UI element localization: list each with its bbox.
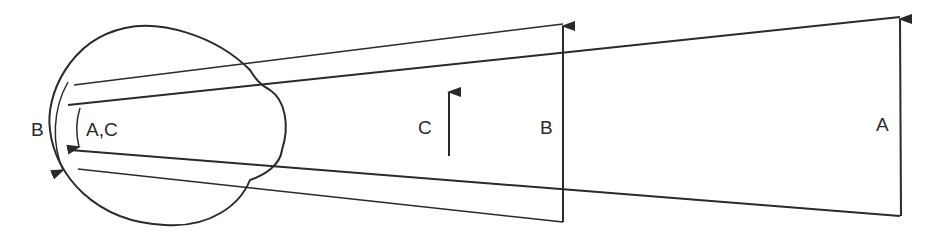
ray-a-top	[68, 17, 900, 105]
label-eye-ac: A,C	[86, 120, 118, 139]
label-object-c: C	[418, 118, 432, 137]
ray-a-bottom	[70, 150, 900, 216]
eyeball-outline	[49, 26, 285, 225]
ray-b-bottom	[78, 169, 563, 222]
object-arrow-a	[900, 19, 901, 216]
label-object-a: A	[876, 115, 889, 134]
label-eye-b: B	[31, 120, 44, 139]
angle-arrow-ac	[77, 108, 80, 147]
label-object-b: B	[540, 118, 553, 137]
visual-angle-diagram	[0, 0, 939, 243]
ray-b-top	[74, 24, 563, 85]
